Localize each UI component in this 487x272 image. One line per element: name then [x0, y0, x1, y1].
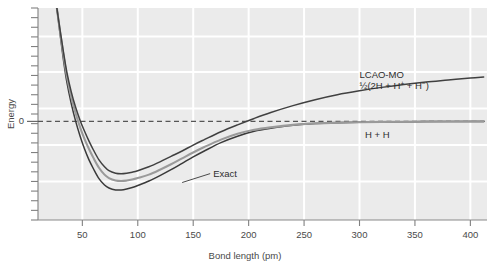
- x-axis-ticks: [82, 220, 470, 226]
- x-tick-label: 350: [407, 229, 423, 240]
- x-axis-title: Bond length (pm): [209, 250, 282, 261]
- lcao-mo-dissociation-products: ½(2H + H+ + H−): [360, 79, 429, 91]
- h-plus-h-label: H + H: [365, 129, 390, 140]
- x-axis-tick-labels: 50100150200250300350400: [77, 229, 478, 240]
- x-tick-label: 200: [241, 229, 257, 240]
- x-tick-label: 400: [462, 229, 478, 240]
- exact-label: Exact: [213, 168, 237, 179]
- x-tick-label: 50: [77, 229, 88, 240]
- x-tick-label: 150: [185, 229, 201, 240]
- x-tick-label: 100: [130, 229, 146, 240]
- y-axis-title: Energy: [5, 99, 16, 129]
- y-axis-zero-label: 0: [19, 115, 24, 126]
- plot-panel-background: [38, 8, 487, 220]
- y-axis-ticks: [31, 8, 38, 220]
- x-tick-label: 300: [352, 229, 368, 240]
- x-tick-label: 250: [296, 229, 312, 240]
- lcao-mo-label: LCAO-MO: [360, 69, 404, 80]
- chart-figure: 50100150200250300350400 0 Energy Bond le…: [0, 0, 487, 272]
- potential-energy-curve-chart: 50100150200250300350400 0 Energy Bond le…: [0, 0, 487, 272]
